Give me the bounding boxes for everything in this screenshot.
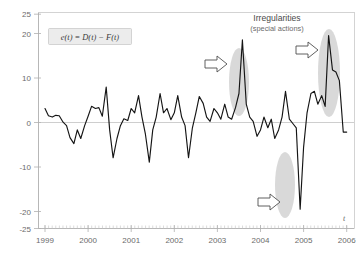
annotation-title: Irregularities [253,13,300,23]
x-tick-label: 2004 [252,236,270,245]
y-tick-label: -10 [19,163,31,172]
arrow-icon-to-spike-2005 [296,42,318,58]
annotation-subtitle: (special actions) [250,24,303,33]
equation-text: e(t) = D(t) − F(t) [61,33,119,42]
x-tick-label: 2001 [122,236,140,245]
x-tick-label: 2005 [295,236,313,245]
x-tick-label: 2002 [165,236,183,245]
x-tick-label: 1999 [36,236,54,245]
x-axis-minor-ticks [45,226,347,229]
plot-frame [39,13,355,229]
error-series-chart: 25 20 10 0 -10 -20 -25 1999 2000 2001 [0,0,361,260]
chart-container: 25 20 10 0 -10 -20 -25 1999 2000 2001 [0,0,361,260]
irregularity-highlights [229,29,340,218]
x-tick-label: 2003 [209,236,227,245]
y-tick-label: -25 [19,225,31,234]
y-tick-label: 10 [22,74,31,83]
equation-badge: e(t) = D(t) − F(t) [49,29,132,45]
y-tick-label: 0 [27,119,32,128]
x-tick-label: 2000 [79,236,97,245]
x-tick-label: 2006 [338,236,356,245]
highlight-positive-spike-2003 [229,48,249,116]
x-axis-variable-label: t [343,214,346,223]
y-tick-label: 25 [22,10,31,19]
arrow-icon-to-spike-2003 [205,56,227,72]
highlight-negative-spike-2004 [275,152,295,218]
y-axis-ticks: 25 20 10 0 -10 -20 -25 [19,10,41,233]
y-tick-label: 20 [22,30,31,39]
y-tick-label: -20 [19,208,31,217]
